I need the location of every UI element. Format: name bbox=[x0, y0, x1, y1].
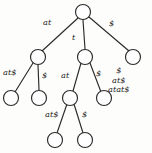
edge-label-lbl_tat_dol: $ bbox=[82, 110, 87, 118]
edge-label-lbl_tat_ats: at$ bbox=[45, 110, 59, 118]
tree-edge-e6 bbox=[73, 63, 81, 91]
tree-node-l_at_ats bbox=[4, 91, 19, 106]
suffix-tree-diagram: att$at$$at$at$$ $at$atat$ bbox=[0, 0, 152, 153]
tree-node-n_t_at bbox=[63, 91, 78, 106]
tree-node-n_t bbox=[78, 50, 93, 65]
tree-edge-e4 bbox=[15, 63, 33, 92]
tree-node-l_tat_ats bbox=[48, 133, 63, 148]
tree-node-n_at bbox=[31, 50, 46, 65]
edge-label-lbl_root_dol: $ bbox=[109, 19, 114, 27]
suffix-list: $at$atat$ bbox=[108, 66, 130, 95]
edge-label-lbl_at_dol: $ bbox=[42, 71, 47, 79]
tree-node-l_tat_dol bbox=[78, 133, 93, 148]
tree-edge-e5 bbox=[38, 65, 39, 90]
tree-edge-e2 bbox=[83, 20, 85, 49]
tree-node-l_at_dol bbox=[32, 91, 47, 106]
edge-label-lbl_root_at: at bbox=[43, 18, 51, 26]
tree-node-root bbox=[76, 5, 91, 20]
edge-label-lbl_t_at: at bbox=[61, 71, 69, 79]
suffix-list-item: atat$ bbox=[108, 85, 130, 95]
tree-node-l_dol bbox=[126, 50, 141, 65]
edge-label-lbl_root_t: t bbox=[72, 33, 75, 41]
edge-label-lbl_t_dol: $ bbox=[96, 69, 101, 77]
edge-label-lbl_at_ats: at$ bbox=[3, 68, 17, 76]
